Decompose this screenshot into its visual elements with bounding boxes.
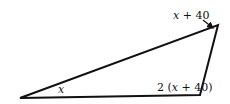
- angle-label-bottom-left: x: [58, 83, 65, 96]
- angle-label-top-right: x + 40: [173, 9, 209, 22]
- triangle-diagram: x + 40 2 (x + 40) x: [0, 0, 230, 104]
- angle-label-bottom-right: 2 (x + 40): [157, 81, 213, 94]
